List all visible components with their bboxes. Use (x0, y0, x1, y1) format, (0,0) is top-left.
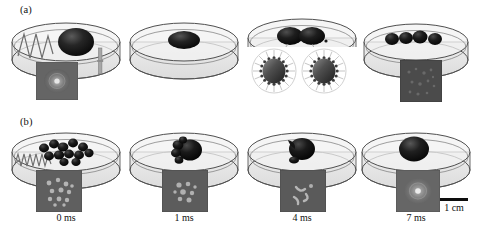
inset-photo-b3 (280, 170, 326, 212)
droplet (64, 150, 74, 159)
frame-b3: 4 ms (242, 126, 362, 230)
droplet (399, 137, 429, 162)
droplet (68, 139, 78, 148)
droplet (171, 149, 181, 158)
frame-a1 (6, 14, 126, 118)
droplet (44, 152, 54, 161)
micelle-diagram (252, 49, 296, 93)
droplet (179, 137, 187, 144)
scale-bar: 1 cm (432, 198, 476, 213)
inset-photo-a4 (400, 60, 442, 102)
droplet (385, 33, 399, 45)
frame-a4 (356, 14, 476, 118)
droplet (49, 140, 59, 149)
micelle-diagram (302, 49, 346, 93)
droplet (399, 32, 413, 44)
inset-photo-b1 (36, 170, 82, 212)
droplet (413, 31, 428, 44)
droplet (39, 144, 49, 153)
frame-a3 (242, 14, 362, 118)
petri-dish-a2 (124, 14, 244, 118)
frame-b2: 1 ms (124, 126, 244, 230)
droplet (54, 151, 64, 160)
scale-bar-line (440, 198, 468, 201)
frame-b1: 0 ms (6, 126, 126, 230)
droplet (71, 158, 80, 166)
droplet (84, 149, 93, 157)
inset-photo-a1 (36, 62, 78, 100)
droplet (428, 33, 442, 45)
droplet (299, 27, 325, 45)
time-label-b1: 0 ms (6, 212, 126, 223)
droplet (168, 31, 200, 49)
droplet (324, 39, 327, 42)
figure-root: (a) (0, 0, 477, 233)
time-label-b3: 4 ms (242, 212, 362, 223)
frame-a2 (124, 14, 244, 118)
petri-dish-a3 (242, 14, 362, 118)
droplet (58, 28, 94, 56)
droplet (59, 158, 68, 166)
frame-b4: 7 ms (356, 126, 476, 230)
time-label-b4: 7 ms (356, 212, 476, 223)
inset-photo-b2 (162, 170, 208, 212)
caption-fragment (0, 226, 477, 233)
droplet (289, 156, 299, 163)
droplet (175, 156, 184, 164)
scale-bar-label: 1 cm (432, 202, 476, 213)
time-label-b2: 1 ms (124, 212, 244, 223)
